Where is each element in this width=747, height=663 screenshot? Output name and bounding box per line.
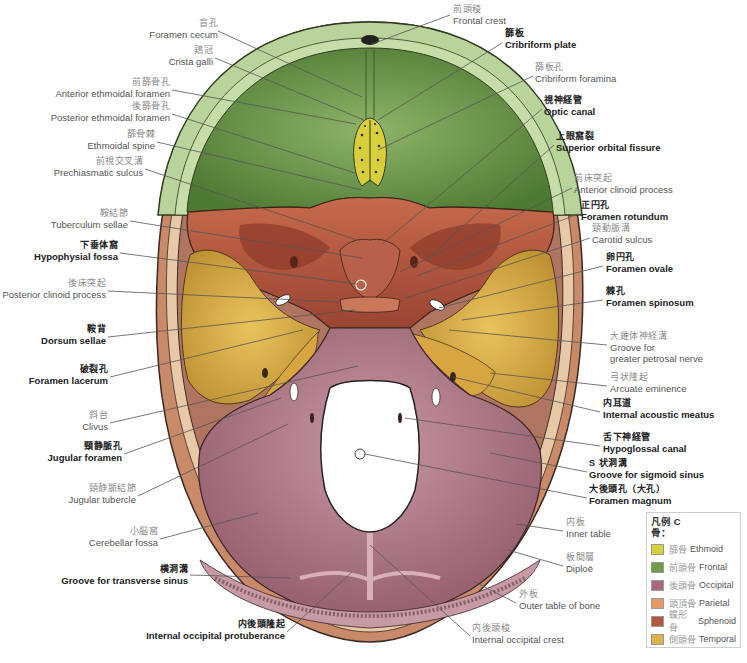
legend-item-sphenoid: 蝶形骨 Sphenoid [651,612,736,630]
occipital-swatch [651,580,664,591]
label-outer-table: 外板 Outer table of bone [519,589,600,611]
label-jp: 頸動脈溝 [592,223,652,234]
label-tuberculum-sellae: 鞍結節 Tuberculum sellae [30,208,128,230]
temporal-swatch [651,634,664,645]
label-diploe: 板間層 Diploë [566,552,595,574]
label-jugular-foramen: 頸静脈孔 Jugular foramen [30,441,122,463]
label-jp: 前篩骨孔 [40,77,170,88]
label-crista-galli: 鶏冠 Crista galli [140,45,213,67]
label-jp: 舌下神経管 [603,432,686,443]
label-foramen-cecum: 盲孔 Foramen cecum [138,18,218,40]
label-jp: 前床突起 [574,173,673,184]
label-en: Arcuate eminence [610,383,687,394]
label-en: Jugular foramen [30,452,122,463]
label-optic-canal: 視神経管 Optic canal [544,95,595,117]
label-en: Cribriform plate [505,39,576,50]
legend-item-jp: 前頭骨 [669,561,696,574]
label-en: Clivus [60,421,108,432]
label-hypoglossal-canal: 舌下神経管 Hypoglossal canal [603,432,686,454]
legend-title: 凡例 C [651,516,736,527]
label-jp: 盲孔 [138,18,218,29]
label-en: Foramen cecum [138,29,218,40]
label-groove-transverse-sinus: 横洞溝 Groove for transverse sinus [40,564,188,586]
label-jp: 篩板 [505,28,576,39]
legend-item-frontal: 前頭骨 Frontal [651,558,736,576]
label-jp: 外板 [519,589,600,600]
label-en-line1: Groove for [610,342,703,353]
label-internal-occipital-crest: 内後頭稜 Internal occipital crest [472,623,564,645]
label-jp: 大後頭孔（大孔） [589,484,671,495]
label-jp: 斜台 [60,410,108,421]
label-en: Posterior clinoid process [0,289,106,300]
label-jp: 弓状隆起 [610,372,687,383]
legend-item-occipital: 後頭骨 Occipital [651,576,736,594]
label-arcuate-eminence: 弓状隆起 Arcuate eminence [610,372,687,394]
legend-item-en: Temporal [699,634,736,644]
parietal-swatch [651,598,664,609]
label-en: Foramen rotundum [581,211,668,222]
label-anterior-ethmoidal-foramen: 前篩骨孔 Anterior ethmoidal foramen [40,77,170,99]
label-jp: 篩板孔 [535,62,616,73]
label-jp: 卵円孔 [606,252,673,263]
label-dorsum-sellae: 鞍背 Dorsum sellae [20,324,106,346]
label-en: Dorsum sellae [20,335,106,346]
label-jp: 後床突起 [0,278,106,289]
label-en: Foramen ovale [606,263,673,274]
label-cribriform-foramina: 篩板孔 Cribriform foramina [535,62,616,84]
cranial-base-figure: 盲孔 Foramen cecum 鶏冠 Crista galli 前篩骨孔 An… [0,0,747,663]
label-jp: 横洞溝 [40,564,188,575]
label-jp: 板間層 [566,552,595,563]
legend-item-jp: 後頭骨 [669,579,696,592]
label-cerebellar-fossa: 小脳窩 Cerebellar fossa [70,526,158,548]
label-jp: 小脳窩 [70,526,158,537]
label-en: Frontal crest [453,15,506,26]
label-jp: S 状洞溝 [589,458,704,469]
label-en: Internal occipital protuberance [110,630,285,641]
legend-item-en: Ethmoid [690,544,723,554]
label-en: Outer table of bone [519,600,600,611]
label-en: Cribriform foramina [535,73,616,84]
label-en: Foramen spinosum [606,297,694,308]
label-en: Internal acoustic meatus [603,409,714,420]
label-anterior-clinoid-process: 前床突起 Anterior clinoid process [574,173,673,195]
label-jp: 内後頭隆起 [110,619,285,630]
label-jugular-tubercle: 頸静脈結節 Jugular tubercle [50,483,136,505]
label-en: Tuberculum sellae [30,219,128,230]
legend-item-en: Parietal [699,598,730,608]
label-en-line2: greater petrosal nerve [610,353,703,364]
label-jp: 鶏冠 [140,45,213,56]
label-posterior-clinoid-process: 後床突起 Posterior clinoid process [0,278,106,300]
ethmoid-bone-region [354,118,387,186]
label-jp: 下垂体窩 [10,240,118,251]
label-jp: 正円孔 [581,200,668,211]
label-jp: 鞍背 [20,324,106,335]
label-en: Hypophysial fossa [10,251,118,262]
label-en: Internal occipital crest [472,634,564,645]
label-en: Prechiasmatic sulcus [30,167,143,178]
ethmoid-swatch [651,544,664,555]
legend-subtitle: 骨： [651,527,736,538]
label-en: Inner table [566,528,611,539]
label-jp: 上眼窩裂 [556,131,661,142]
bone-legend: 凡例 C 骨： 篩骨 Ethmoid 前頭骨 Frontal 後頭骨 Occip… [646,512,741,648]
sphenoid-swatch [651,616,664,627]
legend-item-en: Sphenoid [698,616,736,626]
label-jp: 前視交叉溝 [30,156,143,167]
label-hypophysial-fossa: 下垂体窩 Hypophysial fossa [10,240,118,262]
label-clivus: 斜台 Clivus [60,410,108,432]
legend-item-en: Occipital [699,580,734,590]
label-jp: 視神経管 [544,95,595,106]
label-en: Jugular tubercle [50,494,136,505]
label-jp: 頸静脈孔 [30,441,122,452]
label-groove-greater-petrosal-nerve: 大錐体神経溝 Groove for greater petrosal nerve [610,331,703,364]
label-en: Diploë [566,563,595,574]
label-en: Foramen magnum [589,495,671,506]
legend-item-jp: 側頭骨 [669,633,696,646]
label-posterior-ethmoidal-foramen: 後篩骨孔 Posterior ethmoidal foramen [30,101,170,123]
label-foramen-spinosum: 棘孔 Foramen spinosum [606,286,694,308]
label-jp: 大錐体神経溝 [610,331,703,342]
label-ethmoidal-spine: 篩骨棘 Ethmoidal spine [60,129,155,151]
legend-item-jp: 蝶形骨 [669,608,695,634]
label-en: Anterior clinoid process [574,184,673,195]
label-groove-sigmoid-sinus: S 状洞溝 Groove for sigmoid sinus [589,458,704,480]
